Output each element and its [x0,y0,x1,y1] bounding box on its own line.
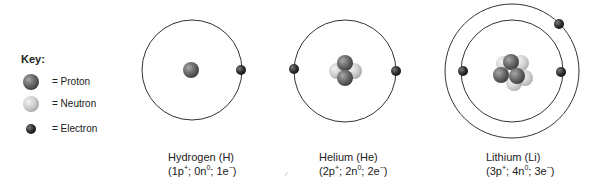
key-item-proton: = Proton [46,76,90,87]
helium-proton [337,70,353,86]
key-item-neutron: = Neutron [46,98,96,109]
stray-mark: ⁄ [284,171,288,177]
neutron-key-icon [23,96,39,112]
helium-electron [391,66,401,76]
lithium-caption: Lithium (Li) (3p+; 4n0; 3e−) [486,150,554,178]
hydrogen-name: Hydrogen (H) [168,150,236,164]
hydrogen-composition: (1p+; 0n0; 1e−) [168,164,236,178]
lithium-proton [509,68,525,84]
lithium-proton [493,67,509,83]
key-item-electron: = Electron [46,123,97,134]
lithium-proton [503,54,519,70]
proton-key-icon [23,74,39,90]
helium-name: Helium (He) [319,150,387,164]
lithium-composition: (3p+; 4n0; 3e−) [486,164,554,178]
helium-composition: (2p+; 2n0; 2e−) [319,164,387,178]
key-symbols [23,74,39,134]
lithium-atom [445,4,579,138]
key-title: Key: [21,53,45,65]
helium-caption: Helium (He) (2p+; 2n0; 2e−) [319,150,387,178]
key-label-neutron: = Neutron [52,98,96,109]
hydrogen-caption: Hydrogen (H) (1p+; 0n0; 1e−) [168,150,236,178]
hydrogen-atom [142,20,246,120]
lithium-electron [554,19,564,29]
lithium-electron [556,67,566,77]
lithium-electron [458,66,468,76]
electron-key-icon [26,124,36,134]
key-label-proton: = Proton [52,76,90,87]
hydrogen-proton [183,62,199,78]
helium-electron [289,64,299,74]
key-label-electron: = Electron [52,123,97,134]
helium-atom [289,20,401,122]
lithium-name: Lithium (Li) [486,150,554,164]
helium-proton [337,55,353,71]
hydrogen-electron [236,65,246,75]
